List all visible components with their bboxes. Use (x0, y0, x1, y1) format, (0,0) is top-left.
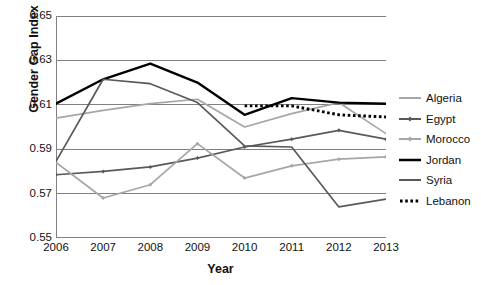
legend-label: Jordan (426, 154, 461, 166)
legend-item-algeria[interactable]: Algeria (399, 88, 481, 109)
legend-label: Egypt (426, 113, 455, 125)
legend-swatch-icon (399, 174, 421, 186)
series-marker-egypt (384, 137, 386, 141)
x-axis-title: Year (55, 262, 386, 276)
series-line-egypt (56, 130, 386, 174)
x-tick-label: 2006 (34, 242, 78, 254)
series-marker-egypt (148, 165, 152, 169)
series-marker-egypt (101, 169, 105, 173)
x-tick-label: 2007 (81, 242, 125, 254)
plot-area (56, 16, 386, 238)
legend-item-morocco[interactable]: Morocco (399, 129, 481, 150)
legend-label: Lebanon (426, 195, 471, 207)
legend-label: Algeria (426, 92, 462, 104)
series-marker-egypt (290, 137, 294, 141)
legend-swatch-icon (399, 113, 421, 125)
legend-item-syria[interactable]: Syria (399, 170, 481, 191)
legend-swatch-icon (399, 92, 421, 104)
line-chart: Gender Gap Index 0.650.630.610.590.570.5… (0, 0, 481, 285)
legend-item-jordan[interactable]: Jordan (399, 150, 481, 171)
legend-swatch-icon (399, 195, 421, 207)
legend-swatch-icon (399, 154, 421, 166)
series-marker-morocco (384, 155, 386, 159)
y-tick-label: 0.59 (6, 143, 52, 155)
x-tick-label: 2009 (175, 242, 219, 254)
series-line-jordan (56, 64, 386, 115)
series-marker-egypt (195, 156, 199, 160)
chart-legend: AlgeriaEgyptMoroccoJordanSyriaLebanon (399, 88, 481, 211)
x-tick-label: 2012 (317, 242, 361, 254)
x-tick-label: 2008 (128, 242, 172, 254)
series-marker-morocco (337, 157, 341, 161)
legend-item-lebanon[interactable]: Lebanon (399, 191, 481, 212)
y-tick-label: 0.57 (6, 188, 52, 200)
legend-swatch-icon (399, 133, 421, 145)
y-tick-label: 0.63 (6, 54, 52, 66)
legend-label: Morocco (426, 133, 470, 145)
legend-item-egypt[interactable]: Egypt (399, 109, 481, 130)
series-marker-morocco (290, 164, 294, 168)
x-axis-tick-labels: 20062007200820092010201120122013 (56, 242, 386, 260)
legend-label: Syria (426, 174, 452, 186)
x-tick-label: 2013 (364, 242, 408, 254)
plot-svg (56, 16, 386, 238)
x-tick-label: 2011 (270, 242, 314, 254)
x-tick-label: 2010 (223, 242, 267, 254)
series-marker-egypt (337, 128, 341, 132)
y-tick-label: 0.65 (6, 10, 52, 22)
y-tick-label: 0.61 (6, 99, 52, 111)
